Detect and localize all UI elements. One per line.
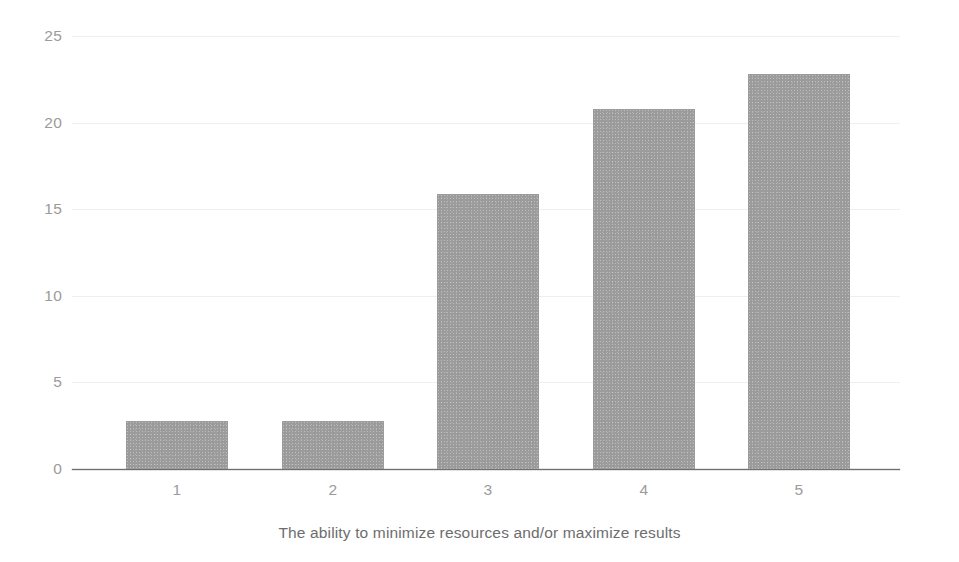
bar-chart-figure: 25 20 15 10 5 0 1 2 3 4 5 [0, 0, 959, 562]
bar-category-1[interactable] [126, 421, 228, 470]
x-axis-baseline [72, 469, 900, 470]
x-axis-tick-labels: 1 2 3 4 5 [72, 481, 900, 505]
x-tick-label-1: 1 [173, 481, 182, 499]
y-tick-label-25: 25 [44, 27, 62, 45]
y-tick-label-20: 20 [44, 114, 62, 132]
y-axis-tick-labels: 25 20 15 10 5 0 [0, 30, 62, 469]
y-tick-label-5: 5 [53, 373, 62, 391]
bars-layer [72, 30, 900, 469]
x-axis-title: The ability to minimize resources and/or… [0, 524, 959, 542]
bar-category-3[interactable] [437, 194, 539, 469]
y-tick-label-10: 10 [44, 287, 62, 305]
x-tick-label-3: 3 [484, 481, 493, 499]
bar-category-2[interactable] [282, 421, 384, 470]
bar-category-4[interactable] [593, 109, 695, 469]
x-tick-label-4: 4 [640, 481, 649, 499]
bar-category-5[interactable] [748, 74, 850, 469]
y-tick-label-0: 0 [53, 460, 62, 478]
plot-area [72, 30, 900, 469]
x-tick-label-2: 2 [329, 481, 338, 499]
y-tick-label-15: 15 [44, 200, 62, 218]
x-tick-label-5: 5 [795, 481, 804, 499]
